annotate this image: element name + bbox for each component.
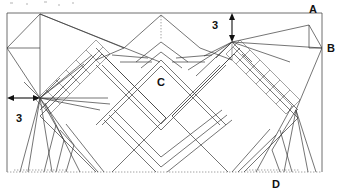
dimension-label-left: 3 [16, 112, 22, 124]
left-apex-structure [7, 14, 160, 98]
outer-frame [7, 13, 322, 172]
scan-artifact-3 [44, 1, 47, 3]
right-gridded-band [226, 40, 300, 114]
scan-artifact-5 [72, 2, 74, 4]
point-label-c: C [157, 76, 165, 88]
dimension-label-top-right: 3 [212, 19, 218, 31]
lower-center-bands [104, 110, 232, 177]
right-lower-legs [232, 48, 322, 172]
right-apex-structure [232, 25, 322, 62]
right-fan-spokes [188, 42, 232, 76]
center-connecting-bands [96, 65, 226, 125]
dimension-left: 3 [7, 95, 40, 124]
scan-artifact-2 [26, 3, 28, 5]
point-label-d: D [272, 178, 280, 190]
point-label-a: A [309, 3, 317, 15]
center-small-diamond [126, 60, 196, 130]
scan-artifact-4 [58, 4, 60, 6]
left-lower-legs [20, 98, 104, 172]
scan-artifact-1 [10, 2, 13, 4]
figure-page: 3 3 A B C D [0, 0, 337, 191]
technical-drawing: 3 3 A B C D [0, 0, 337, 191]
point-label-b: B [327, 42, 335, 54]
dimension-top-right: 3 [212, 13, 235, 42]
